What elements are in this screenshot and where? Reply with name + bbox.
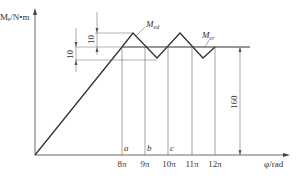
x-tick-label: 10π <box>162 159 176 169</box>
dim-upper-label: 10 <box>86 35 96 45</box>
point-c-label: c <box>170 143 174 153</box>
point-b-label: b <box>147 143 152 153</box>
y-axis-label: Mₑ/N•m <box>0 12 29 22</box>
x-tick-label: 11π <box>185 159 199 169</box>
drive-torque-curve <box>35 33 215 155</box>
dim-lower-label: 10 <box>65 50 75 60</box>
dim-height-label: 160 <box>229 95 239 109</box>
drive-torque-label: Med <box>145 19 160 30</box>
point-a-label: a <box>124 143 129 153</box>
resist-label-leader <box>205 40 209 47</box>
dim-arrow-icon <box>96 28 99 33</box>
dim-arrow-icon <box>75 60 78 65</box>
x-axis-arrow-icon <box>283 153 290 157</box>
x-axis-label: φ/rad <box>264 159 284 169</box>
dim-arrow-icon <box>239 150 242 155</box>
dim-arrow-icon <box>239 47 242 52</box>
resist-torque-label: Mer <box>201 30 215 41</box>
x-tick-label: 12π <box>208 159 222 169</box>
drive-label-leader <box>136 27 145 36</box>
x-tick-label: 9π <box>140 159 150 169</box>
x-tick-label: 8π <box>117 159 127 169</box>
torque-diagram: 10 10 160 Med Mer a b c 8π 9π 10π 11π 12… <box>0 0 296 176</box>
dim-arrow-icon <box>75 42 78 47</box>
y-axis-arrow-icon <box>33 8 37 15</box>
dim-arrow-icon <box>96 47 99 52</box>
